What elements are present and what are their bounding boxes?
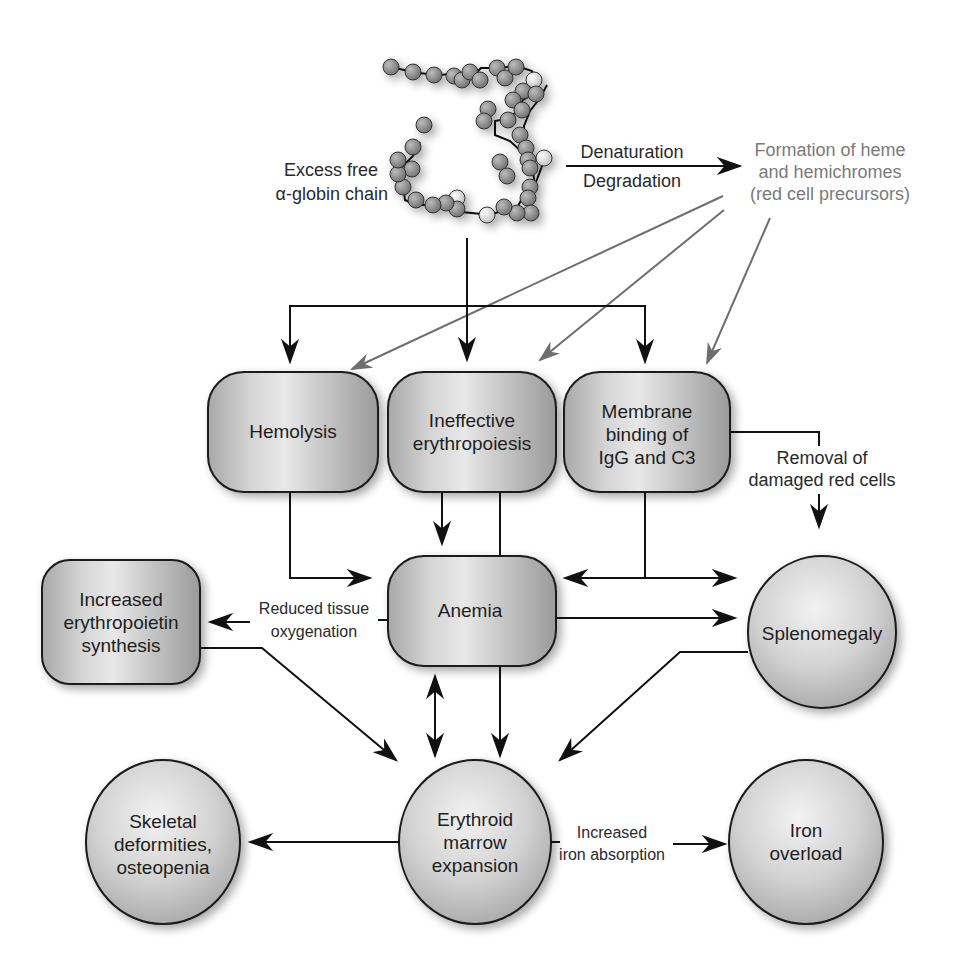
membrane-label-1: Membrane [602,401,693,422]
thalassemia-pathophysiology-diagram: Excess free α-globin chain Denaturation … [0,0,969,954]
gray-arrow-to-membrane [707,218,770,363]
product-label-line3: (red cell precursors) [750,184,910,204]
product-label-line1: Formation of heme [754,140,905,160]
membrane-label-3: IgG and C3 [598,447,695,468]
denaturation-label: Denaturation [580,142,683,162]
erythroid-label-2: marrow [443,832,507,853]
ineffective-erythropoiesis-node [388,372,556,492]
iron-absorption-label-2: iron absorption [559,846,665,863]
iron-absorption-label-1: Increased [577,824,647,841]
iron-overload-node [729,760,883,924]
degradation-label: Degradation [583,171,681,191]
skeletal-label-1: Skeletal [129,811,197,832]
hemolysis-label: Hemolysis [249,421,337,442]
skeletal-label-3: osteopenia [117,857,210,878]
splenomegaly-label: Splenomegaly [762,623,883,644]
membrane-label-2: binding of [606,424,689,445]
epo-label-1: Increased [79,589,162,610]
anemia-label: Anemia [438,600,503,621]
oxygenation-label-2: oxygenation [271,623,357,640]
source-label-line2: α-globin chain [276,184,388,204]
splenomegaly-to-erythroid-arrow [560,652,748,760]
source-label-line1: Excess free [284,160,378,180]
erythroid-label-1: Erythroid [437,809,513,830]
removal-label-1: Removal of [776,448,868,468]
hemolysis-to-anemia-arrow [290,492,370,578]
erythroid-label-3: expansion [432,855,519,876]
iron-label-1: Iron [790,820,823,841]
ineffective-label-1: Ineffective [429,410,515,431]
oxygenation-label-1: Reduced tissue [259,600,369,617]
ineffective-label-2: erythropoiesis [413,433,531,454]
skeletal-label-2: deformities, [114,834,212,855]
epo-label-3: synthesis [81,635,160,656]
protein-chain-icon [383,59,552,223]
membrane-to-removal-line [730,432,819,446]
iron-label-2: overload [770,843,843,864]
product-label-line2: and hemichromes [758,162,901,182]
epo-label-2: erythropoietin [63,612,178,633]
gray-arrow-to-hemolysis [352,196,723,369]
gray-arrow-to-ineffective [540,210,724,360]
epo-to-erythroid-arrow [200,648,396,760]
removal-label-2: damaged red cells [748,470,895,490]
